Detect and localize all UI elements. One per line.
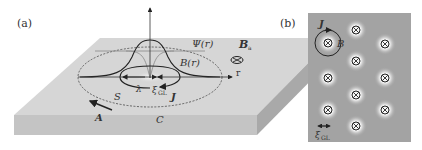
vortex bbox=[345, 50, 367, 72]
panel-a-label: (a) bbox=[17, 17, 32, 30]
superconductor-slab bbox=[14, 38, 333, 135]
psi-label: Ψ(r) bbox=[192, 38, 213, 49]
s-label: S bbox=[114, 91, 121, 102]
vortex bbox=[345, 19, 367, 41]
vortex bbox=[374, 99, 396, 121]
figure: (a) Ψ(r) B(r) B a r λ ξ GL S J A C (b) J… bbox=[0, 0, 422, 150]
vortex bbox=[317, 99, 339, 121]
b-label-b: B bbox=[336, 38, 344, 49]
xi-subscript-b: GL bbox=[321, 134, 330, 141]
a-label: A bbox=[94, 112, 103, 123]
xi-subscript: GL bbox=[158, 89, 167, 96]
vortex bbox=[374, 67, 396, 89]
vortex bbox=[374, 33, 396, 55]
vortex bbox=[345, 115, 367, 137]
c-label: C bbox=[156, 114, 164, 125]
b-field-label: B(r) bbox=[179, 57, 200, 68]
applied-field-subscript: a bbox=[248, 44, 252, 51]
lambda-label: λ bbox=[135, 84, 142, 94]
vortex bbox=[317, 32, 339, 54]
vortex bbox=[345, 84, 367, 106]
applied-field-label: B bbox=[238, 38, 248, 51]
panel-b-label: (b) bbox=[280, 17, 296, 30]
r-axis-label: r bbox=[236, 68, 241, 78]
vortex bbox=[317, 67, 339, 89]
